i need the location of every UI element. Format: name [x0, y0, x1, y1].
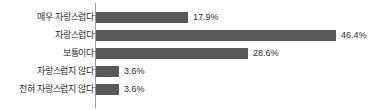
- bar-value-label: 3.6%: [124, 80, 145, 98]
- bar-row: 자랑스럽다 46.4%: [0, 26, 385, 44]
- bar-value-label: 17.9%: [193, 8, 219, 26]
- bar: [96, 48, 248, 59]
- category-label: 자랑스럽지 않다: [2, 62, 94, 80]
- category-label: 자랑스럽다: [2, 26, 94, 44]
- bar-row: 자랑스럽지 않다 3.6%: [0, 62, 385, 80]
- bar-row: 매우 자랑스럽다 17.9%: [0, 8, 385, 26]
- bar-value-label: 3.6%: [124, 62, 145, 80]
- bar: [96, 84, 119, 95]
- category-label: 전혀 자랑스럽지 않다: [2, 80, 94, 98]
- bar: [96, 12, 188, 23]
- bar: [96, 30, 336, 41]
- bar: [96, 66, 119, 77]
- bar-value-label: 46.4%: [341, 26, 367, 44]
- horizontal-bar-chart: 매우 자랑스럽다 17.9% 자랑스럽다 46.4% 보통이다 28.6%: [0, 0, 385, 111]
- plot-area: 매우 자랑스럽다 17.9% 자랑스럽다 46.4% 보통이다 28.6%: [0, 0, 385, 111]
- bar-row: 전혀 자랑스럽지 않다 3.6%: [0, 80, 385, 98]
- category-label: 보통이다: [2, 44, 94, 62]
- bar-value-label: 28.6%: [253, 44, 279, 62]
- category-label: 매우 자랑스럽다: [2, 8, 94, 26]
- bar-row: 보통이다 28.6%: [0, 44, 385, 62]
